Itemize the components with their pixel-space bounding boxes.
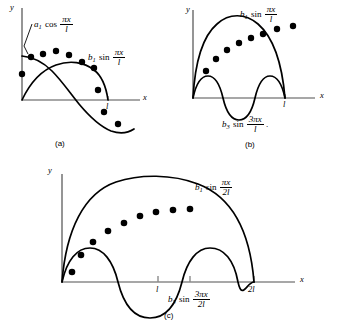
panel-c-third-harmonic-numerator: 3πx [193, 290, 210, 299]
panel-b-caption: (b) [245, 140, 255, 149]
panel-b-fundamental-label: b1 sin πx l [240, 5, 277, 25]
panel-c-x-axis-label: x [300, 274, 304, 284]
panel-c-tick-label-2l: 2l [248, 284, 255, 294]
panel-a-cosine-sub: 1 [39, 23, 42, 30]
panel-c-data-point [187, 206, 194, 213]
panel-b-data-point [274, 26, 280, 32]
panel-b-third-harmonic-sub: 3 [227, 123, 230, 130]
panel-b-data-point [248, 35, 254, 41]
panel-b-fundamental-fraction: πx l [265, 5, 278, 25]
panel-a-data-point [40, 51, 46, 57]
panel-c-data-point [78, 252, 85, 259]
panel-a-data-point [115, 121, 121, 127]
panel-c-data-point [69, 269, 76, 276]
panel-a-data-point [28, 54, 34, 60]
panel-a-sine-numerator: πx [113, 48, 126, 57]
panel-c-caption: (c) [164, 311, 173, 320]
panel-c-data-point [105, 228, 112, 235]
panel-a-cosine-numerator: πx [60, 15, 73, 24]
panel-b-third-harmonic-fraction: 3πx l [247, 115, 264, 135]
panel-a-leader-line [24, 24, 32, 54]
panel-c-data-point [137, 213, 144, 220]
panel-b-fundamental-sub: 1 [245, 13, 248, 20]
panel-a-data-point [19, 71, 25, 77]
panel-c-fundamental-fraction: πx 2l [220, 178, 233, 198]
panel-a-graphic [0, 0, 170, 160]
panel-c-third-harmonic-fraction: 3πx 2l [193, 290, 210, 310]
panel-b-third-harmonic-denominator: l [247, 124, 264, 135]
panel-a-cosine-fn: cos [44, 19, 58, 29]
panel-c-third-harmonic-denominator: 2l [193, 299, 210, 310]
figure-canvas: y x l a1 cos πx l b1 sin πx l (a) [0, 0, 340, 326]
panel-b-fundamental-fn: sin [250, 9, 263, 19]
panel-b-fundamental-denominator: l [265, 14, 278, 25]
panel-a-cosine-label: a1 cos πx l [34, 15, 73, 35]
panel-c-third-harmonic-label: b3 sin 3πx 2l [168, 290, 210, 310]
panel-a-sine-sub: 1 [93, 56, 96, 63]
panel-b-third-harmonic-label: b3 sin 3πx l . [222, 115, 268, 135]
panel-a-sine-denominator: l [113, 57, 126, 68]
panel-c-fundamental-numerator: πx [220, 178, 233, 187]
panel-b-data-point [224, 47, 230, 53]
panel-a-y-axis-label: y [10, 2, 14, 12]
panel-a-x-axis-label: x [143, 92, 147, 102]
panel-a-cosine-fraction: πx l [60, 15, 73, 35]
panel-b-x-axis-label: x [320, 90, 324, 100]
panel-c-third-harmonic-curve [62, 248, 254, 318]
panel-a-tick-label-l: l [106, 101, 108, 111]
panel-a-sine-fraction: πx l [113, 48, 126, 68]
panel-c-data-point [170, 207, 177, 214]
panel-b-data-point [236, 40, 242, 46]
panel-b-data-point [203, 68, 209, 74]
panel-a-data-point [66, 52, 72, 58]
panel-b-data-point [260, 31, 266, 37]
panel-c-data-point [121, 220, 128, 227]
panel-a-sine-label: b1 sin πx l [88, 48, 125, 68]
panel-c-data-point [153, 209, 160, 216]
panel-c-y-axis-label: y [48, 165, 52, 175]
panel-b-third-harmonic-numerator: 3πx [247, 115, 264, 124]
panel-b-tick-label-l: l [283, 99, 285, 109]
panel-a-data-point [53, 48, 59, 54]
panel-c-third-harmonic-sub: 3 [173, 298, 176, 305]
panel-b-data-point [213, 56, 219, 62]
panel-c-data-point [90, 239, 97, 246]
panel-b-third-harmonic-fn: sin [232, 119, 245, 129]
panel-a-data-point [95, 87, 101, 93]
panel-b-third-harmonic-trailing-mark: . [266, 119, 268, 129]
panel-a-cosine-denominator: l [60, 24, 73, 35]
panel-a-sine-fn: sin [98, 52, 111, 62]
panel-c-fundamental-fn: sin [205, 182, 218, 192]
panel-b-y-axis-label: y [186, 4, 190, 14]
panel-b-data-point [290, 23, 296, 29]
panel-b-fundamental-numerator: πx [265, 5, 278, 14]
panel-c-third-harmonic-fn: sin [178, 294, 191, 304]
panel-c-tick-label-l: l [156, 284, 158, 294]
panel-a-data-point [79, 59, 85, 65]
panel-a-caption: (a) [55, 139, 65, 148]
panel-b-fundamental-curve [193, 16, 285, 98]
panel-c-fundamental-label: b1 sin πx 2l [195, 178, 232, 198]
panel-c-fundamental-sub: 1 [200, 186, 203, 193]
panel-c-fundamental-denominator: 2l [220, 187, 233, 198]
